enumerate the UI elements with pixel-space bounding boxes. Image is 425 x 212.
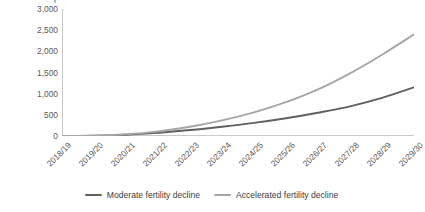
plot-area	[62, 9, 414, 136]
y-axis-tick-label: 1,000	[14, 89, 58, 99]
x-axis-tick-label: 2024/25	[230, 140, 265, 175]
chart-legend: Moderate fertility declineAccelerated fe…	[0, 186, 423, 204]
y-axis-tick-labels: 05001,0001,5002,0002,5003,000	[12, 0, 58, 150]
data-series-group	[62, 34, 414, 136]
y-axis-tick-label: 3,000	[14, 4, 58, 14]
x-axis-tick-label: 2023/24	[198, 140, 233, 175]
y-axis-tick-label: 1,500	[14, 68, 58, 78]
legend-item[interactable]: Accelerated fertility decline	[214, 190, 338, 200]
x-axis-tick-label: 2027/28	[326, 140, 361, 175]
x-axis-tick-label: 2025/26	[262, 140, 297, 175]
x-axis-tick-label: 2019/20	[70, 140, 105, 175]
legend-item-label: Accelerated fertility decline	[236, 190, 338, 200]
y-axis-tick-label: 2,500	[14, 25, 58, 35]
x-axis-tick-label: 2022/23	[166, 140, 201, 175]
legend-item-label: Moderate fertility decline	[107, 190, 200, 200]
x-axis-tick-label: 2021/22	[134, 140, 169, 175]
y-axis-tick-label: 0	[14, 131, 58, 141]
series-line-2	[62, 34, 414, 136]
x-axis-tick-label: 2026/27	[294, 140, 329, 175]
series-line-1	[62, 87, 414, 136]
legend-item[interactable]: Moderate fertility decline	[85, 190, 200, 200]
x-axis-tick-label: 2020/21	[102, 140, 137, 175]
x-axis-tick-label: 2028/29	[358, 140, 393, 175]
legend-line-swatch-icon	[85, 194, 102, 196]
plot-svg	[62, 9, 414, 136]
x-axis-tick-labels: 2018/192019/202020/212021/222022/232023/…	[62, 136, 414, 180]
y-axis-tick-label: 500	[14, 110, 58, 120]
y-axis-tick-label: 2,000	[14, 46, 58, 56]
legend-line-swatch-icon	[214, 194, 231, 196]
x-axis-tick-label: 2029/30	[390, 140, 425, 175]
